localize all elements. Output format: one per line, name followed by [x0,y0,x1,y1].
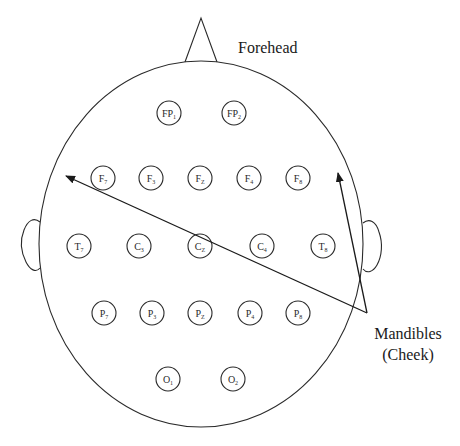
mandibles-label-line2: (Cheek) [366,344,450,365]
eeg-diagram: FP1FP2F7F3FZF4F8T7C3CZC4T8P7P3PZP4P8O1O2… [0,0,460,446]
electrode-c4: C4 [250,234,274,258]
electrode-p4: P4 [238,301,262,325]
electrode-fz: FZ [188,166,212,190]
electrode-o1: O1 [156,367,180,391]
right-ear-icon [363,221,381,272]
electrode-f8: F8 [286,166,310,190]
electrode-t8: T8 [311,234,335,258]
nose-icon [185,18,217,62]
electrode-f4: F4 [237,166,261,190]
forehead-label: Forehead [238,40,298,56]
electrode-fp2: FP2 [222,101,246,125]
electrode-o2: O2 [221,367,245,391]
electrode-c3: C3 [127,234,151,258]
head-diagram-canvas: FP1FP2F7F3FZF4F8T7C3CZC4T8P7P3PZP4P8O1O2 [0,0,460,446]
mandibles-label-line1: Mandibles [366,323,450,344]
electrode-pz: PZ [188,301,212,325]
head-outline [22,18,382,427]
electrode-p7: P7 [92,301,116,325]
electrode-f7: F7 [91,166,115,190]
electrode-array: FP1FP2F7F3FZF4F8T7C3CZC4T8P7P3PZP4P8O1O2 [67,101,335,391]
mandibles-label: Mandibles (Cheek) [366,323,450,365]
electrode-p3: P3 [140,301,164,325]
electrode-p8: P8 [286,301,310,325]
left-ear-icon [22,220,40,271]
electrode-fp1: FP1 [157,101,181,125]
electrode-f3: F3 [139,166,163,190]
electrode-t7: T7 [67,234,91,258]
